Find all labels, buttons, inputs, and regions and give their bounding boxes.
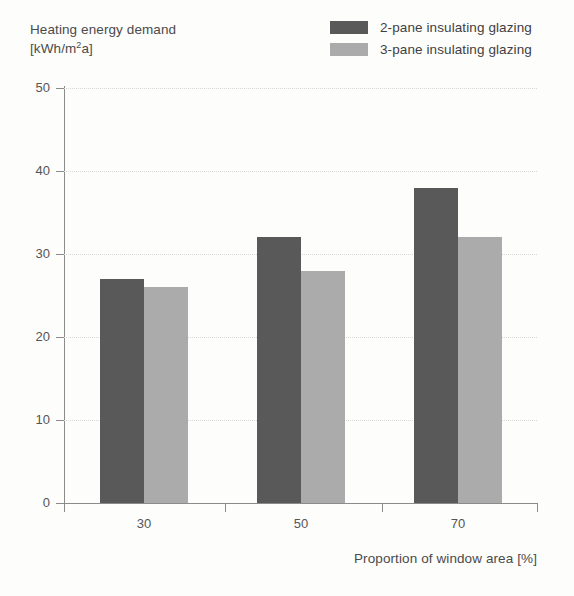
y-axis-tick [56,503,64,504]
y-axis-tick [56,254,64,255]
y-axis-tick-label: 50 [12,80,50,95]
x-axis-tick [382,503,383,512]
x-axis-tick [225,503,226,512]
y-axis-unit-pre: [kWh/m [30,41,76,56]
x-axis-tick-label: 50 [271,516,331,531]
y-axis-tick [56,420,64,421]
x-axis-tick-label: 30 [114,516,174,531]
y-axis-tick-label: 40 [12,163,50,178]
bar-chart: Heating energy demand [kWh/m2a] 2-pane i… [0,0,574,596]
y-axis-unit-post: a] [81,41,92,56]
legend-swatch-3-pane [330,43,368,56]
y-axis-title-text: Heating energy demand [30,22,176,37]
x-axis-tick [64,503,65,512]
x-axis-tick-label: 70 [428,516,488,531]
gridline [64,88,537,89]
legend-item: 3-pane insulating glazing [330,38,570,60]
chart-legend: 2-pane insulating glazing 3-pane insulat… [330,16,570,60]
legend-swatch-2-pane [330,21,368,34]
legend-label-3-pane: 3-pane insulating glazing [380,42,532,57]
y-axis-unit: [kWh/m2a] [30,39,176,58]
bar [257,237,301,503]
plot-area [64,88,537,503]
legend-item: 2-pane insulating glazing [330,16,570,38]
legend-label-2-pane: 2-pane insulating glazing [380,20,532,35]
y-axis-tick [56,88,64,89]
x-axis-line [64,503,538,504]
y-axis-tick [56,171,64,172]
bar [458,237,502,503]
bar [100,279,144,503]
gridline [64,171,537,172]
bar [414,188,458,503]
y-axis-tick-label: 0 [12,495,50,510]
y-axis-title: Heating energy demand [kWh/m2a] [30,20,176,58]
y-axis-tick-label: 20 [12,329,50,344]
y-axis-tick-label: 10 [12,412,50,427]
y-axis-tick [56,337,64,338]
x-axis-title: Proportion of window area [%] [354,551,537,566]
bar [144,287,188,503]
x-axis-tick [537,503,538,512]
bar [301,271,345,503]
y-axis-tick-label: 30 [12,246,50,261]
